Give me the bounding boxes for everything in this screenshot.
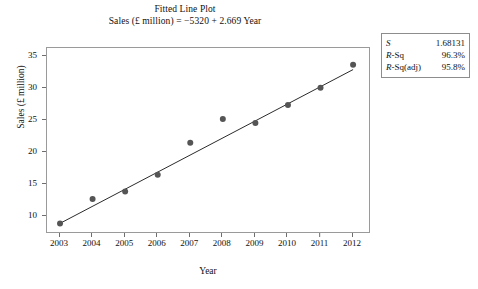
statistic-value: 1.68131 xyxy=(436,37,465,49)
data-point xyxy=(252,120,258,126)
data-point xyxy=(90,196,96,202)
fitted-line-plot-figure: Fitted Line Plot Sales (£ million) = −53… xyxy=(0,0,478,289)
scatter-series xyxy=(47,48,371,234)
x-tick-2007: 2007 xyxy=(180,233,198,249)
regression-line xyxy=(60,70,353,224)
y-tick-15: 15 xyxy=(28,178,46,188)
x-tick-2003: 2003 xyxy=(50,233,68,249)
statistic-label: R-Sq xyxy=(386,49,408,61)
y-tick-35: 35 xyxy=(28,50,46,60)
data-point xyxy=(220,116,226,122)
y-tick-20: 20 xyxy=(28,146,46,156)
y-tick-label: 10 xyxy=(28,210,37,220)
x-tick-mark xyxy=(221,233,222,237)
x-tick-label: 2007 xyxy=(180,238,198,249)
x-tick-label: 2005 xyxy=(115,238,133,249)
y-tick-30: 30 xyxy=(28,82,46,92)
statistics-row: S1.68131 xyxy=(386,37,465,49)
x-tick-2008: 2008 xyxy=(213,233,231,249)
x-tick-2005: 2005 xyxy=(115,233,133,249)
statistic-value: 95.8% xyxy=(442,61,465,73)
x-tick-mark xyxy=(91,233,92,237)
plot-inner xyxy=(47,48,369,232)
data-point xyxy=(285,102,291,108)
x-tick-2009: 2009 xyxy=(245,233,263,249)
data-point xyxy=(122,188,128,194)
x-axis-ticks: 2003200420052006200720082009201020112012 xyxy=(46,233,370,253)
x-tick-mark xyxy=(319,233,320,237)
x-tick-mark xyxy=(59,233,60,237)
x-tick-2011: 2011 xyxy=(311,233,329,249)
x-tick-mark xyxy=(352,233,353,237)
statistic-label: R-Sq(adj) xyxy=(386,61,425,73)
data-point xyxy=(57,220,63,226)
plot-area xyxy=(46,47,370,233)
y-tick-label: 30 xyxy=(28,82,37,92)
chart-subtitle: Sales (£ million) = −5320 + 2.669 Year xyxy=(0,15,370,28)
x-tick-2012: 2012 xyxy=(343,233,361,249)
x-tick-label: 2010 xyxy=(278,238,296,249)
x-tick-label: 2008 xyxy=(213,238,231,249)
statistic-value: 96.3% xyxy=(442,49,465,61)
statistics-row: R-Sq96.3% xyxy=(386,49,465,61)
x-tick-label: 2006 xyxy=(148,238,166,249)
x-tick-label: 2004 xyxy=(83,238,101,249)
x-tick-mark xyxy=(189,233,190,237)
y-tick-label: 25 xyxy=(28,114,37,124)
x-tick-mark xyxy=(124,233,125,237)
y-axis-ticks: 101520253035 xyxy=(0,47,46,233)
data-point xyxy=(187,140,193,146)
x-tick-mark xyxy=(254,233,255,237)
x-tick-mark xyxy=(156,233,157,237)
data-point xyxy=(318,85,324,91)
statistic-label: S xyxy=(386,37,395,49)
title-block: Fitted Line Plot Sales (£ million) = −53… xyxy=(0,3,370,28)
data-point xyxy=(350,62,356,68)
y-tick-label: 35 xyxy=(28,50,37,60)
x-tick-label: 2009 xyxy=(245,238,263,249)
x-tick-mark xyxy=(286,233,287,237)
y-tick-10: 10 xyxy=(28,210,46,220)
x-tick-label: 2003 xyxy=(50,238,68,249)
y-tick-25: 25 xyxy=(28,114,46,124)
x-axis-title: Year xyxy=(46,266,370,276)
y-tick-label: 15 xyxy=(28,178,37,188)
y-tick-label: 20 xyxy=(28,146,37,156)
x-tick-label: 2012 xyxy=(343,238,361,249)
x-tick-label: 2011 xyxy=(311,238,329,249)
data-point xyxy=(155,172,161,178)
x-tick-2010: 2010 xyxy=(278,233,296,249)
x-tick-2004: 2004 xyxy=(83,233,101,249)
chart-title: Fitted Line Plot xyxy=(0,3,370,15)
statistics-box: S1.68131R-Sq96.3%R-Sq(adj)95.8% xyxy=(381,33,470,78)
statistics-row: R-Sq(adj)95.8% xyxy=(386,61,465,73)
x-tick-2006: 2006 xyxy=(148,233,166,249)
